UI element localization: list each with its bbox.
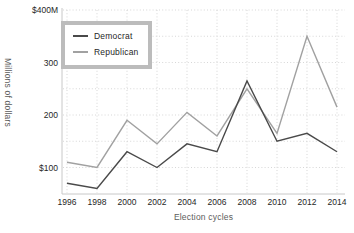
x-tick-label: 2000 xyxy=(118,197,137,207)
democrat-line xyxy=(67,81,337,189)
x-tick-label: 2012 xyxy=(298,197,317,207)
y-tick-label: $400M xyxy=(32,5,58,15)
y-tick-label: $100 xyxy=(39,163,58,173)
x-tick-label: 2010 xyxy=(268,197,287,207)
y-tick-label: 200 xyxy=(44,110,58,120)
chart-panel: $100200300$400M1996199820002002200420062… xyxy=(0,0,354,233)
x-tick-label: 2014 xyxy=(328,197,347,207)
x-tick-label: 2008 xyxy=(238,197,257,207)
democrat-line-swatch xyxy=(73,35,88,37)
x-tick-label: 1998 xyxy=(88,197,107,207)
x-axis-title: Election cycles xyxy=(62,212,345,222)
legend-item-republican: Republican xyxy=(73,47,139,57)
republican-line-swatch xyxy=(73,51,88,53)
x-tick-label: 2006 xyxy=(208,197,227,207)
legend: Democrat Republican xyxy=(61,21,152,69)
chart-svg: $100200300$400M1996199820002002200420062… xyxy=(0,0,354,233)
legend-label-republican: Republican xyxy=(94,47,139,57)
x-tick-label: 1996 xyxy=(58,197,77,207)
y-axis-title: Millions of dollars xyxy=(3,58,13,127)
y-tick-label: 300 xyxy=(44,58,58,68)
x-tick-label: 2002 xyxy=(148,197,167,207)
legend-label-democrat: Democrat xyxy=(94,31,132,41)
legend-item-democrat: Democrat xyxy=(73,31,139,41)
x-tick-label: 2004 xyxy=(178,197,197,207)
